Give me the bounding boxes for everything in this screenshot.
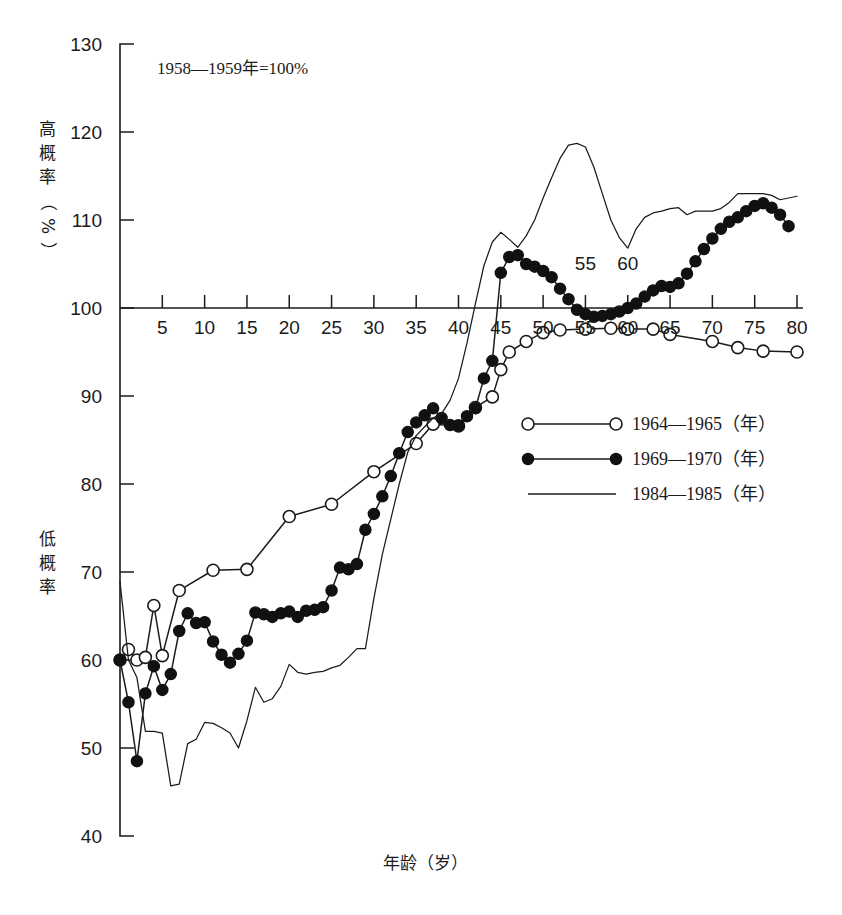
data-point-open <box>647 323 659 335</box>
data-point-open <box>122 643 134 655</box>
x-tick-label: 5 <box>157 317 168 338</box>
x-tick-label: 55 <box>575 317 596 338</box>
data-point-open <box>486 391 498 403</box>
data-point-filled <box>233 648 244 659</box>
data-point-open <box>368 466 380 478</box>
x-tick-label: 30 <box>363 317 384 338</box>
data-point-open <box>139 651 151 663</box>
y-axis-title-lower: 低概率 <box>39 529 56 597</box>
data-point-open <box>148 599 160 611</box>
data-point-filled <box>241 635 252 646</box>
data-point-filled <box>318 602 329 613</box>
data-point-filled <box>174 625 185 636</box>
y-axis-title-upper-char: % <box>38 218 58 234</box>
data-point-open <box>173 584 185 596</box>
x-tick-label: 40 <box>448 317 469 338</box>
x-tick-label: 60 <box>617 317 638 338</box>
legend-label: 1969—1970（年） <box>632 449 776 469</box>
data-point-filled <box>774 209 785 220</box>
data-point-filled <box>207 636 218 647</box>
x-tick-label: 10 <box>194 317 215 338</box>
data-point-filled <box>140 688 151 699</box>
y-tick-label: 40 <box>81 826 102 847</box>
chart-figure: 4050607080901001101201305101520253035404… <box>0 0 842 915</box>
data-point-filled <box>698 243 709 254</box>
data-point-filled <box>554 283 565 294</box>
y-tick-label: 50 <box>81 738 102 759</box>
data-point-filled <box>546 272 557 283</box>
data-point-filled <box>368 508 379 519</box>
y-tick-label: 120 <box>70 122 102 143</box>
data-point-filled <box>326 585 337 596</box>
x-tick-label: 50 <box>533 317 554 338</box>
data-point-filled <box>351 558 362 569</box>
data-point-open <box>605 322 617 334</box>
y-tick-label: 90 <box>81 386 102 407</box>
data-point-filled <box>428 403 439 414</box>
legend-label: 1964—1965（年） <box>632 414 776 434</box>
y-axis-title-upper-char: （ <box>38 194 58 211</box>
data-point-filled <box>199 617 210 628</box>
data-point-filled <box>478 373 489 384</box>
data-point-filled <box>470 403 481 414</box>
y-axis-title-lower-char: 概 <box>39 553 56 573</box>
data-point-filled <box>512 250 523 261</box>
data-point-filled <box>681 268 692 279</box>
data-point-filled <box>131 756 142 767</box>
y-tick-label: 110 <box>72 210 102 231</box>
baseline-note: 1958—1959年=100% <box>157 59 308 78</box>
x-tick-label: 70 <box>702 317 723 338</box>
y-axis-title-upper-char: ） <box>38 242 58 259</box>
legend-label: 1984—1985（年） <box>632 484 776 504</box>
legend-marker-filled <box>610 453 621 464</box>
data-point-filled <box>123 697 134 708</box>
data-point-open <box>520 335 532 347</box>
legend-marker-open <box>522 418 534 430</box>
legend-marker-filled <box>522 453 533 464</box>
x-tick-label: 65 <box>659 317 680 338</box>
data-point-open <box>241 563 253 575</box>
data-point-filled <box>385 470 396 481</box>
data-point-filled <box>707 233 718 244</box>
y-tick-label: 80 <box>81 474 102 495</box>
x-tick-label: 75 <box>744 317 765 338</box>
data-point-filled <box>377 491 388 502</box>
data-point-filled <box>360 524 371 535</box>
y-axis-title-upper-char: 率 <box>39 167 56 187</box>
data-point-open <box>326 498 338 510</box>
data-point-filled <box>690 256 701 267</box>
data-point-open <box>156 650 168 662</box>
y-axis-title-lower-char: 率 <box>39 577 56 597</box>
y-axis-title-lower-char: 低 <box>39 529 56 549</box>
y-tick-label: 70 <box>81 562 102 583</box>
y-tick-label: 130 <box>70 34 102 55</box>
x-inline-label: 55 <box>575 253 596 274</box>
data-point-filled <box>224 657 235 668</box>
x-inline-label: 60 <box>617 253 638 274</box>
data-point-filled <box>165 668 176 679</box>
legend-marker-open <box>610 418 622 430</box>
data-point-filled <box>673 278 684 289</box>
data-point-filled <box>453 420 464 431</box>
x-tick-label: 15 <box>236 317 257 338</box>
data-point-filled <box>182 608 193 619</box>
data-point-filled <box>783 221 794 232</box>
data-point-filled <box>394 448 405 459</box>
x-tick-label: 25 <box>321 317 342 338</box>
data-point-open <box>207 564 219 576</box>
x-tick-label: 20 <box>279 317 300 338</box>
data-point-open <box>732 342 744 354</box>
data-point-filled <box>148 661 159 672</box>
data-point-filled <box>114 654 125 665</box>
x-tick-label: 80 <box>786 317 807 338</box>
y-axis-title-upper-char: 高 <box>39 119 56 139</box>
data-point-filled <box>487 355 498 366</box>
y-tick-label: 100 <box>70 298 102 319</box>
data-point-open <box>503 346 515 358</box>
data-point-filled <box>402 426 413 437</box>
y-tick-label: 60 <box>81 650 102 671</box>
data-point-open <box>495 364 507 376</box>
data-point-filled <box>563 294 574 305</box>
data-point-open <box>283 511 295 523</box>
data-point-filled <box>495 267 506 278</box>
